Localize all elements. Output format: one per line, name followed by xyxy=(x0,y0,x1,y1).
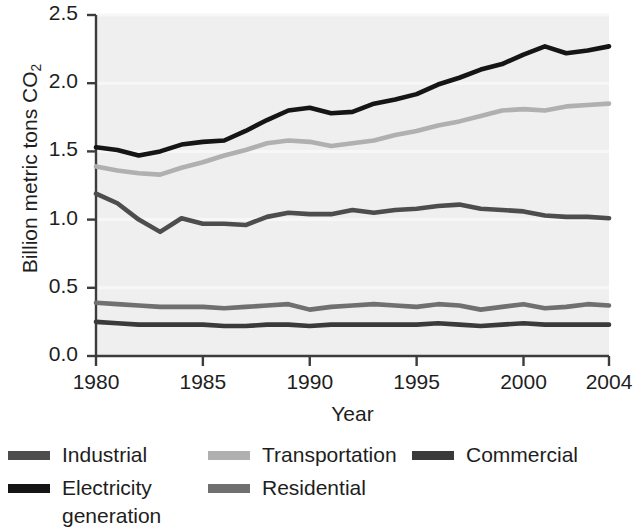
x-axis-tick-label: 1985 xyxy=(163,370,243,394)
y-axis-tick-label: 1.0 xyxy=(18,206,78,230)
legend-item: Industrial xyxy=(8,441,147,469)
series-line-commercial xyxy=(96,322,609,326)
x-axis-title: Year xyxy=(95,402,610,426)
legend-item-label: Electricity generation xyxy=(62,474,161,530)
x-axis-tick-label: 1990 xyxy=(270,370,350,394)
legend-item: Commercial xyxy=(412,441,578,469)
legend-swatch-icon xyxy=(8,484,50,493)
legend-item: Transportation xyxy=(208,441,397,469)
x-axis-tick-label: 2004 xyxy=(569,370,637,394)
legend-item-label: Residential xyxy=(262,474,366,502)
legend-swatch-icon xyxy=(208,484,250,493)
y-axis-title-text: Billion metric tons CO xyxy=(18,71,41,273)
x-axis-tick-label: 1995 xyxy=(377,370,457,394)
legend-swatch-icon xyxy=(208,451,250,460)
y-axis-tick-label: 2.5 xyxy=(18,1,78,25)
y-axis-tick-label: 0.0 xyxy=(18,342,78,366)
x-axis-tick-label: 1980 xyxy=(56,370,136,394)
chart-plot-area: Billion metric tons CO2 Year 0.00.51.01.… xyxy=(0,0,632,440)
y-axis-tick-label: 2.0 xyxy=(18,69,78,93)
legend-item-label: Industrial xyxy=(62,441,147,469)
legend-item: Electricity generation xyxy=(8,474,161,530)
legend-swatch-icon xyxy=(412,451,454,460)
legend-swatch-icon xyxy=(8,451,50,460)
legend-item: Residential xyxy=(208,474,366,502)
legend-item-label: Commercial xyxy=(466,441,578,469)
x-axis-tick-label: 2000 xyxy=(484,370,564,394)
y-axis-tick-label: 1.5 xyxy=(18,137,78,161)
y-axis-tick-label: 0.5 xyxy=(18,274,78,298)
chart-legend: IndustrialTransportationCommercialElectr… xyxy=(0,441,632,525)
legend-item-label: Transportation xyxy=(262,441,397,469)
